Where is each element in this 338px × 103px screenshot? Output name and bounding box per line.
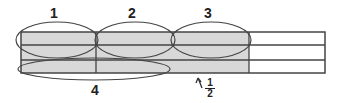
- fraction-bar-diagram: 1 2 3 4 1 2: [0, 0, 338, 103]
- fraction-half: 1 2: [205, 78, 215, 99]
- label-1: 1: [50, 5, 58, 21]
- shaded-region: [21, 32, 249, 73]
- fraction-denominator: 2: [205, 89, 215, 99]
- label-3: 3: [204, 5, 212, 21]
- label-4: 4: [91, 82, 99, 98]
- label-2: 2: [128, 5, 136, 21]
- arrow-icon: [196, 78, 202, 88]
